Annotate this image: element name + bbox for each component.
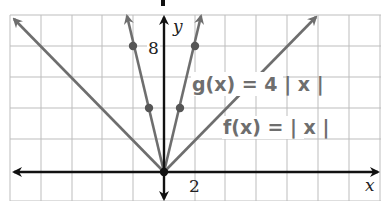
y-axis-label: y: [172, 16, 183, 36]
x-tick-2: 2: [189, 176, 200, 196]
f-label: f(x) = | x |: [223, 116, 329, 139]
x-axis-label: x: [365, 175, 375, 195]
g-label: g(x) = 4 | x |: [192, 73, 324, 96]
cropped-title-fragment: [161, 0, 165, 6]
y-tick-8: 8: [148, 38, 159, 58]
absolute-value-graph: 8 y 2 x g(x) = 4 | x | f(x) = | x |: [0, 0, 381, 201]
